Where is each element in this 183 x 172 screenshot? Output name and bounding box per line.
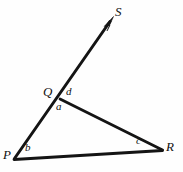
angle-label-a: a [56,101,62,112]
angle-label-d: d [66,86,72,97]
vertex-label-Q: Q [43,85,52,98]
angle-label-b: b [25,142,31,153]
segment-PR [14,151,163,160]
ray-PS [15,17,114,159]
angle-label-c: c [136,135,141,146]
geometry-figure: P Q R S a b c d [0,0,183,172]
vertex-label-S: S [115,5,122,18]
segment-QR [60,99,163,150]
vertex-label-R: R [166,140,174,153]
ray-PS-line [15,22,111,159]
vertex-label-P: P [3,148,11,161]
